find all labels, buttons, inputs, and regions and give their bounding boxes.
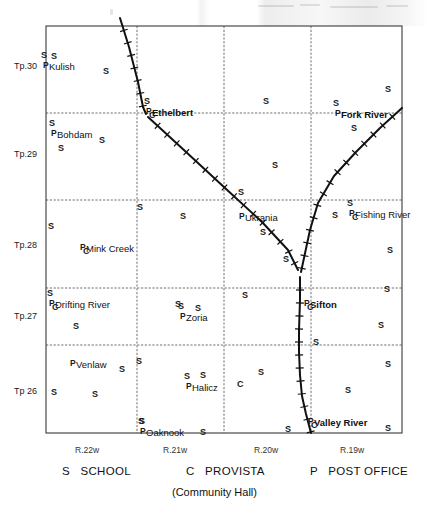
place-post-office-mark-zoria: P: [180, 312, 186, 321]
school-marker-11: S: [238, 188, 244, 197]
railway-line: [120, 18, 146, 114]
place-school-mark-oaknook: S: [138, 417, 144, 426]
school-marker-3: S: [385, 85, 391, 94]
provista-marker-0: C: [237, 380, 244, 389]
place-post-office-mark-mink-creek: P: [80, 243, 86, 252]
railway-tie: [301, 255, 309, 257]
railway-tie: [300, 406, 308, 408]
school-marker-23: S: [136, 357, 142, 366]
place-label-halicz: Halicz: [192, 383, 218, 393]
railway-tie: [298, 268, 306, 270]
place-post-office-mark-sifton: P: [304, 299, 310, 308]
school-marker-4: S: [351, 124, 357, 133]
school-marker-14: S: [260, 228, 266, 237]
place-post-office-mark-fishing-river: P: [349, 209, 355, 218]
school-marker-15: S: [73, 322, 79, 331]
school-marker-21: S: [378, 321, 384, 330]
school-marker-9: S: [48, 222, 54, 231]
range-label-3: R.19w: [340, 446, 364, 455]
school-marker-27: S: [200, 371, 206, 380]
township-grid-lines: [46, 26, 402, 433]
place-post-office-mark-fork-river: P: [335, 109, 341, 118]
map-root: Tp.30Tp.29Tp.28Tp.27Tp 26 R.22wR.21wR.20…: [0, 0, 428, 516]
school-marker-20: S: [387, 246, 393, 255]
legend-label-post-office: POST OFFICE: [328, 465, 408, 477]
school-marker-6: S: [58, 144, 64, 153]
place-post-office-mark-kulish: P: [43, 61, 49, 70]
legend-item-school: S SCHOOL: [62, 466, 131, 478]
railway-line: [148, 117, 298, 270]
map-grid: [0, 0, 428, 516]
school-marker-10: S: [180, 212, 186, 221]
school-marker-13: S: [283, 255, 289, 264]
place-label-venlaw: Venlaw: [76, 360, 107, 370]
school-marker-28: S: [258, 368, 264, 377]
place-label-zoria: Zoria: [186, 313, 208, 323]
legend-symbol-provista: C: [186, 465, 195, 477]
range-label-2: R.20w: [254, 446, 278, 455]
place-label-valley-river: Valley River: [314, 418, 367, 428]
legend-label-school: SCHOOL: [80, 465, 130, 477]
place-label-ukrania: Ukrania: [245, 213, 278, 223]
place-post-office-mark-ethelbert: P: [146, 107, 152, 116]
township-label-2: Tp.28: [14, 241, 37, 250]
school-marker-19: S: [384, 285, 390, 294]
school-marker-0: S: [51, 52, 57, 61]
school-marker-32: S: [200, 428, 206, 437]
place-school-mark-halicz: S: [184, 372, 190, 381]
township-label-4: Tp 26: [14, 387, 37, 396]
place-label-kulish: Kulish: [49, 62, 75, 72]
place-label-drifting-river: Drifting River: [55, 300, 110, 310]
school-marker-29: S: [345, 386, 351, 395]
place-post-office-mark-venlaw: P: [70, 359, 76, 368]
school-marker-1: S: [103, 67, 109, 76]
railway-tie: [298, 394, 306, 395]
place-label-oaknook: Oaknook: [146, 428, 184, 438]
range-label-0: R.22w: [75, 446, 99, 455]
legend-label-provista: PROVISTA: [205, 465, 265, 477]
railway-tie: [136, 92, 144, 94]
school-marker-7: S: [272, 161, 278, 170]
place-school-mark-fishing-river: S: [347, 199, 353, 208]
place-post-office-mark-halicz: P: [186, 382, 192, 391]
school-marker-5: S: [99, 136, 105, 145]
legend-subtitle: (Community Hall): [172, 487, 257, 498]
township-label-0: Tp.30: [14, 62, 37, 71]
railway-tie: [297, 381, 305, 382]
school-marker-34: S: [385, 424, 391, 433]
school-marker-30: S: [385, 360, 391, 369]
place-school-mark-drifting-river: S: [47, 289, 53, 298]
legend-symbol-school: S: [62, 465, 70, 477]
place-school-mark-kulish: S: [41, 51, 47, 60]
place-post-office-mark-valley-river: P: [308, 417, 314, 426]
place-label-bohdam: Bohdam: [57, 130, 92, 140]
place-post-office-mark-drifting-river: P: [49, 299, 55, 308]
place-school-mark-bohdam: S: [49, 119, 55, 128]
school-marker-33: S: [285, 425, 291, 434]
place-label-fork-river: Fork River: [341, 110, 388, 120]
school-marker-24: S: [119, 365, 125, 374]
railway-tie: [306, 229, 314, 231]
place-label-ethelbert: Ethelbert: [152, 108, 193, 118]
range-label-1: R.21w: [163, 446, 187, 455]
place-school-mark-fork-river: S: [333, 99, 339, 108]
school-marker-18: S: [242, 291, 248, 300]
legend-symbol-post-office: P: [310, 465, 318, 477]
township-label-3: Tp.27: [14, 312, 37, 321]
school-marker-22: S: [313, 338, 319, 347]
place-label-sifton: Sifton: [310, 300, 337, 310]
township-label-1: Tp.29: [14, 150, 37, 159]
school-marker-8: S: [137, 203, 143, 212]
place-post-office-mark-oaknook: P: [140, 427, 146, 436]
school-marker-2: S: [263, 97, 269, 106]
place-label-fishing-river: Fishing River: [355, 210, 410, 220]
place-school-mark-ethelbert: S: [144, 97, 150, 106]
school-marker-25: S: [92, 390, 98, 399]
legend-item-provista: C PROVISTA: [186, 466, 265, 478]
school-marker-26: S: [51, 388, 57, 397]
legend-item-post-office: P POST OFFICE: [310, 466, 408, 478]
school-marker-12: S: [332, 211, 338, 220]
place-school-mark-zoria: S: [178, 302, 184, 311]
place-post-office-mark-bohdam: P: [51, 129, 57, 138]
railway-tie: [303, 242, 311, 244]
